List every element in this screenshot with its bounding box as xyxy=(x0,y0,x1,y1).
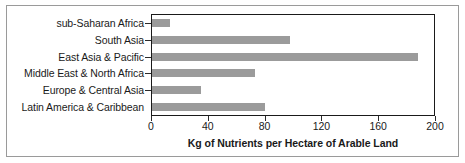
bar-row xyxy=(152,65,434,82)
bar-east-asia-pacific xyxy=(152,53,418,61)
bar-row xyxy=(152,48,434,65)
category-label-east-asia-pacific: East Asia & Pacific xyxy=(0,48,148,65)
x-axis-tick-label-80: 80 xyxy=(259,120,271,132)
bar-latin-america-caribbean xyxy=(152,103,265,111)
bar-sub-saharan-africa xyxy=(152,19,170,27)
bar-chart: sub-Saharan Africa South Asia East Asia … xyxy=(0,0,465,163)
bar-row xyxy=(152,32,434,49)
category-label-latin-america-caribbean: Latin America & Caribbean xyxy=(0,98,148,115)
x-axis-tick-label-160: 160 xyxy=(369,120,387,132)
category-label-europe-central-asia: Europe & Central Asia xyxy=(0,82,148,99)
x-axis-tick-label-0: 0 xyxy=(148,120,154,132)
bar-row xyxy=(152,82,434,99)
bar-middle-east-north-africa xyxy=(152,69,255,77)
x-axis-title: Kg of Nutrients per Hectare of Arable La… xyxy=(151,137,435,149)
x-axis-tick-label-120: 120 xyxy=(313,120,331,132)
bars-group xyxy=(152,15,434,115)
bar-europe-central-asia xyxy=(152,86,201,94)
figure-container: sub-Saharan Africa South Asia East Asia … xyxy=(0,0,465,163)
category-axis-labels: sub-Saharan Africa South Asia East Asia … xyxy=(0,15,148,115)
category-label-sub-saharan-africa: sub-Saharan Africa xyxy=(0,15,148,32)
bar-row xyxy=(152,15,434,32)
category-label-south-asia: South Asia xyxy=(0,32,148,49)
x-axis-tick-label-200: 200 xyxy=(426,120,444,132)
x-axis-tick-label-40: 40 xyxy=(202,120,214,132)
bar-south-asia xyxy=(152,36,290,44)
bar-row xyxy=(152,98,434,115)
category-label-middle-east-north-africa: Middle East & North Africa xyxy=(0,65,148,82)
